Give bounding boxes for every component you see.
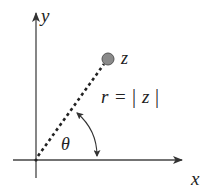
origin-point [34, 158, 37, 161]
y-axis-label: y [39, 5, 50, 26]
angle-theta-label: θ [61, 134, 70, 154]
radius-label: r = | z | [101, 85, 159, 108]
polar-diagram: y x z r = | z | θ [0, 0, 206, 192]
x-axis-label: x [190, 168, 200, 189]
radius-equals: = [115, 86, 126, 107]
point-z-label: z [120, 48, 128, 68]
angle-arc [77, 113, 97, 156]
radius-bar-left: | [132, 85, 136, 108]
radius-r: r [101, 86, 109, 107]
point-z [102, 53, 114, 65]
radius-dashed-line [38, 64, 104, 156]
radius-z: z [141, 86, 150, 107]
radius-bar-right: | [155, 85, 159, 108]
